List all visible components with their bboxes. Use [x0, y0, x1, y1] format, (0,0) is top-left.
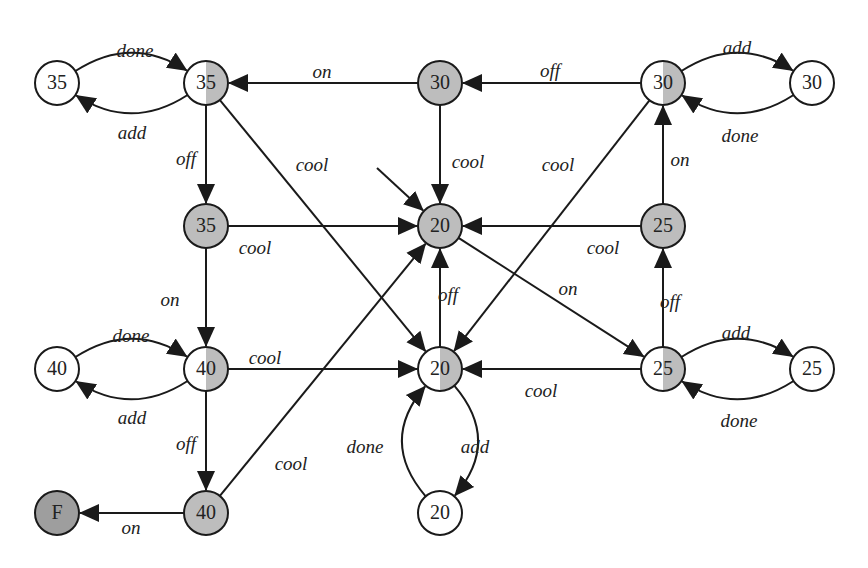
state-node-20: 20: [418, 491, 462, 535]
edge-label-cool: cool: [452, 151, 485, 172]
state-node-20: 20: [418, 347, 462, 391]
state-node-30: 30: [790, 61, 834, 105]
edge-labels-layer: doneaddonoffadddoneoffcoolcoolcooloncool…: [113, 37, 759, 538]
edge-label-on: on: [313, 61, 332, 82]
state-node-35: 35: [184, 61, 228, 105]
edge-label-cool: cool: [239, 237, 272, 258]
edge-label-on: on: [161, 289, 180, 310]
state-node-label: 25: [653, 214, 673, 236]
nodes-layer: 35353030303520254040202525F4020: [35, 61, 834, 535]
edge-n30c-to-n30b: [682, 95, 793, 113]
edge-label-add: add: [723, 37, 752, 58]
edge-n40b-to-n40a: [76, 381, 187, 399]
state-node-30: 30: [641, 61, 685, 105]
state-node-label: 40: [196, 357, 216, 379]
state-node-F: F: [35, 491, 79, 535]
edge-label-off: off: [540, 60, 563, 81]
edge-label-off: off: [176, 148, 199, 169]
state-node-label: 30: [802, 71, 822, 93]
state-node-30: 30: [418, 61, 462, 105]
state-node-label: 30: [653, 71, 673, 93]
edge-label-off: off: [438, 284, 461, 305]
state-node-label: 35: [196, 214, 216, 236]
state-node-35: 35: [184, 204, 228, 248]
edge-n35b-to-n35a: [76, 95, 187, 113]
edge-label-cool: cool: [587, 237, 620, 258]
state-node-label: 25: [653, 357, 673, 379]
state-node-label: 20: [430, 501, 450, 523]
initial-state-arrow: [377, 168, 423, 210]
state-node-40: 40: [35, 347, 79, 391]
edge-label-cool: cool: [249, 347, 282, 368]
edge-label-done: done: [721, 410, 758, 431]
edge-label-on: on: [671, 149, 690, 170]
edge-label-cool: cool: [275, 453, 308, 474]
edge-n25c-to-n25b: [682, 381, 793, 399]
state-node-label: F: [51, 501, 62, 523]
state-diagram: 35353030303520254040202525F4020 doneaddo…: [0, 0, 868, 568]
edge-label-done: done: [113, 325, 150, 346]
edge-label-add: add: [118, 122, 147, 143]
edge-n20c-to-n20b: [402, 386, 426, 496]
state-node-label: 30: [430, 71, 450, 93]
edge-label-on: on: [122, 517, 141, 538]
edge-label-done: done: [347, 436, 384, 457]
edge-label-add: add: [118, 407, 147, 428]
state-node-25: 25: [790, 347, 834, 391]
edge-label-add: add: [461, 436, 490, 457]
state-node-label: 25: [802, 357, 822, 379]
state-node-20: 20: [418, 204, 462, 248]
state-node-label: 40: [47, 357, 67, 379]
state-node-25: 25: [641, 347, 685, 391]
edge-label-on: on: [559, 278, 578, 299]
edge-label-cool: cool: [542, 154, 575, 175]
edge-label-cool: cool: [525, 380, 558, 401]
state-node-label: 35: [196, 71, 216, 93]
edge-label-add: add: [722, 322, 751, 343]
state-node-label: 35: [47, 71, 67, 93]
state-node-25: 25: [641, 204, 685, 248]
edge-label-done: done: [722, 125, 759, 146]
state-node-label: 20: [430, 357, 450, 379]
edge-label-off: off: [660, 291, 683, 312]
initial-arrow: [377, 168, 423, 210]
state-node-40: 40: [184, 491, 228, 535]
edge-label-off: off: [176, 433, 199, 454]
state-node-label: 20: [430, 214, 450, 236]
state-node-label: 40: [196, 501, 216, 523]
state-node-35: 35: [35, 61, 79, 105]
state-node-40: 40: [184, 347, 228, 391]
edge-label-cool: cool: [296, 154, 329, 175]
edge-label-done: done: [117, 40, 154, 61]
